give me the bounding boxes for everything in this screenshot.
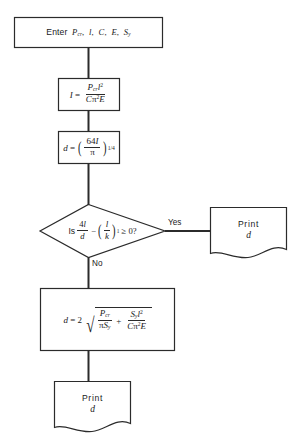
node-compute-I-formula: I = Pcrl2 Cπ2E [70, 84, 108, 106]
node-compute-d2[interactable]: d = 2 √ Pcr πSy + Syl2 Cπ2E [40, 288, 175, 351]
node-compute-I[interactable]: I = Pcrl2 Cπ2E [58, 78, 120, 111]
branch-label-yes: Yes [168, 218, 181, 227]
node-print-right-label: Print [238, 219, 259, 229]
node-print-right[interactable]: Print d [210, 210, 287, 248]
node-print-bottom-label: Print [82, 393, 103, 403]
branch-label-no: No [92, 259, 102, 268]
node-compute-d-formula: d = ( 64I π ) 1/4 [63, 137, 115, 158]
node-compute-d[interactable]: d = ( 64I π ) 1/4 [58, 131, 120, 164]
node-input[interactable]: Enter Pcr, l, C, E, Sy [14, 17, 163, 48]
node-print-right-variable: d [246, 230, 251, 240]
node-compute-d2-formula: d = 2 √ Pcr πSy + Syl2 Cπ2E [63, 307, 151, 332]
node-input-label: Enter Pcr, l, C, E, Sy [46, 28, 130, 38]
node-print-bottom[interactable]: Print d [54, 384, 131, 422]
node-decision-condition: Is 4l d − ( l k ) 1 ≥ 0? [68, 221, 136, 242]
node-print-bottom-variable: d [90, 404, 95, 414]
node-decision[interactable]: Is 4l d − ( l k ) 1 ≥ 0? [40, 216, 165, 246]
